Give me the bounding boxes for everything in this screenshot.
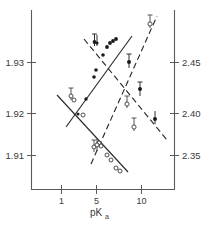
data-point-filled [94,68,98,72]
left-tick-label-191: 1.91 [6,150,25,161]
data-point-filled [127,60,131,64]
data-point-filled [138,87,142,91]
data-point-filled [77,113,80,116]
left-tick-label-193: 1.93 [6,57,25,68]
data-point-group [95,35,98,46]
left-tick-label-192: 1.92 [6,108,25,119]
data-point-open [81,113,85,117]
data-point-open [125,102,129,106]
data-point-group [132,118,137,131]
right-tick-label-245: 2.45 [182,57,201,68]
data-point-filled [84,97,87,100]
bottom-axis-ticks: 1 5 10 [59,185,147,206]
chart-figure: 1.93 1.92 1.91 2.45 2.40 2.35 1 5 10 pK … [0,0,211,234]
data-point-filled [105,45,109,49]
bottom-tick-label-10: 10 [136,196,146,206]
fit-line-solid-rising [66,36,132,127]
data-point-open [72,98,76,102]
data-point-open [99,144,103,148]
right-tick-label-235: 2.35 [182,150,201,161]
data-point-open [95,143,99,147]
scatter-plot-canvas: 1.93 1.92 1.91 2.45 2.40 2.35 1 5 10 pK … [0,0,211,234]
x-axis-title: pK a [90,207,109,220]
data-point-open [105,153,109,157]
data-point-open [118,169,122,173]
data-point-open [132,125,136,129]
axis-frame [32,10,175,190]
fit-line-dashed-falling [84,39,167,140]
data-point-open [114,166,118,170]
x-axis-title-subscript: a [105,213,109,220]
data-point-open [109,158,113,162]
series-dashed-rising-open [95,15,153,162]
data-point-filled [92,75,96,79]
series-dashed-falling-filled [92,34,157,124]
data-point-filled [95,41,98,44]
data-point-filled [114,37,118,41]
x-axis-title-base: pK [90,207,103,218]
data-point-filled [101,53,105,57]
bottom-tick-label-5: 5 [94,196,99,206]
data-point-group [148,15,153,28]
data-point-group [138,82,143,96]
data-point-filled [153,117,157,121]
series-solid-falling-open [69,88,123,173]
data-point-group [153,111,157,124]
right-tick-label-240: 2.40 [182,108,201,119]
data-point-open [148,22,152,26]
bottom-tick-label-1: 1 [59,196,64,206]
data-point-open [69,94,73,98]
data-point-group [127,54,132,68]
data-point-group [125,96,130,108]
